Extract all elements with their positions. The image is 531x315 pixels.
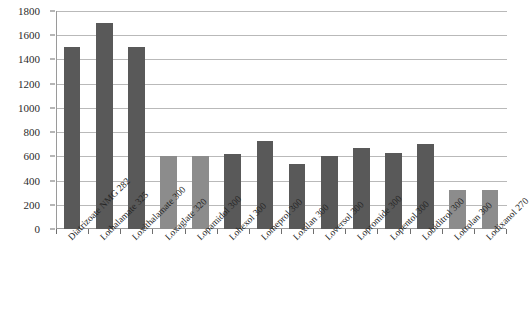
y-tick-label: 600 (24, 151, 41, 162)
y-tick-mark (50, 204, 55, 205)
y-tick-mark (50, 59, 55, 60)
y-tick-mark (50, 11, 55, 12)
y-tick-label: 1400 (18, 54, 40, 65)
y-tick-mark (50, 156, 55, 157)
y-tick-label: 400 (24, 175, 41, 186)
y-tick-label: 1600 (18, 30, 40, 41)
bars-layer (56, 11, 506, 229)
bar (64, 47, 81, 229)
bar-slot (321, 11, 338, 229)
bar-slot (257, 11, 274, 229)
y-tick-label: 1000 (18, 102, 40, 113)
y-tick-mark (50, 107, 55, 108)
y-tick-mark (50, 132, 55, 133)
y-axis: 020040060080010001200140016001800 (0, 0, 50, 240)
x-axis-labels: Diatrizoate NMG 282Lothalamate 325Loxith… (0, 229, 519, 315)
bar-slot (417, 11, 434, 229)
y-tick-mark (50, 35, 55, 36)
y-tick-mark (50, 83, 55, 84)
y-tick-mark (50, 180, 55, 181)
y-tick-label: 800 (24, 127, 41, 138)
bar-slot (482, 11, 499, 229)
bar-slot (353, 11, 370, 229)
y-tick-label: 1200 (18, 78, 40, 89)
y-tick-label: 1800 (18, 6, 40, 17)
bar-slot (64, 11, 81, 229)
y-tick-label: 200 (24, 199, 41, 210)
